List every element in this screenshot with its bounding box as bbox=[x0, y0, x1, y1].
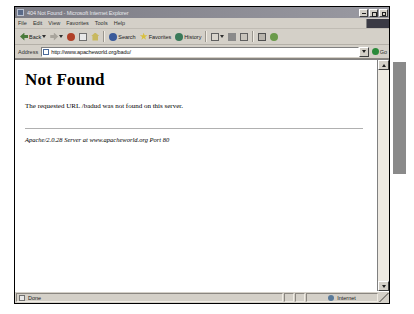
close-button[interactable] bbox=[379, 9, 388, 17]
mail-button[interactable] bbox=[209, 30, 226, 43]
page-title: Not Found bbox=[25, 70, 363, 90]
status-message-pane: Done bbox=[16, 293, 283, 302]
search-button-label: Search bbox=[118, 34, 135, 40]
horizontal-rule bbox=[25, 128, 363, 129]
menu-item-view[interactable]: View bbox=[48, 20, 60, 26]
resize-grip[interactable] bbox=[379, 293, 389, 302]
favorites-button-label: Favorites bbox=[149, 34, 172, 40]
toolbar-separator bbox=[252, 31, 254, 42]
page-edge-artifact bbox=[393, 62, 406, 174]
back-button-label: Back bbox=[29, 34, 41, 40]
go-button-label: Go bbox=[380, 49, 387, 55]
chevron-down-icon[interactable] bbox=[59, 35, 63, 38]
error-message: The requested URL /badud was not found o… bbox=[25, 102, 363, 110]
edit-icon bbox=[240, 33, 248, 41]
vertical-scrollbar[interactable] bbox=[377, 60, 389, 291]
history-clock-icon bbox=[175, 33, 183, 41]
favorites-button[interactable]: Favorites bbox=[138, 30, 174, 43]
forward-arrow-icon bbox=[50, 33, 58, 41]
messenger-icon bbox=[270, 33, 278, 41]
ie-document-icon bbox=[17, 9, 24, 16]
address-bar: Address http://www.apacheworld.org/badu/… bbox=[15, 45, 389, 59]
scroll-up-button[interactable] bbox=[378, 60, 389, 70]
go-button[interactable]: Go bbox=[372, 48, 387, 55]
search-icon bbox=[109, 33, 117, 41]
home-icon bbox=[91, 33, 99, 41]
back-arrow-icon bbox=[20, 33, 28, 41]
address-input[interactable]: http://www.apacheworld.org/badu/ bbox=[41, 47, 358, 57]
toolbar-separator bbox=[103, 31, 105, 42]
ie-logo-icon bbox=[366, 19, 389, 28]
maximize-button[interactable] bbox=[369, 9, 378, 17]
discuss-button[interactable] bbox=[256, 30, 268, 43]
status-pane-extra bbox=[295, 293, 305, 302]
stop-button[interactable] bbox=[65, 30, 77, 43]
history-button-label: History bbox=[184, 34, 201, 40]
navigation-toolbar: Back Search Favorites History bbox=[15, 29, 389, 45]
refresh-icon bbox=[79, 33, 87, 41]
page-favicon-icon bbox=[43, 49, 49, 55]
go-arrow-icon bbox=[372, 48, 379, 55]
home-button[interactable] bbox=[89, 30, 101, 43]
window-title: 404 Not Found - Microsoft Internet Explo… bbox=[27, 10, 358, 16]
refresh-button[interactable] bbox=[77, 30, 89, 43]
edit-button[interactable] bbox=[238, 30, 250, 43]
messenger-button[interactable] bbox=[268, 30, 280, 43]
menu-item-help[interactable]: Help bbox=[114, 20, 125, 26]
menu-item-edit[interactable]: Edit bbox=[33, 20, 42, 26]
mail-icon bbox=[211, 33, 219, 41]
chevron-down-icon[interactable] bbox=[220, 35, 224, 38]
print-icon bbox=[228, 33, 236, 41]
address-dropdown-button[interactable] bbox=[359, 47, 369, 57]
status-document-icon bbox=[19, 295, 25, 301]
stop-icon bbox=[67, 33, 75, 41]
security-zone-pane[interactable]: Internet bbox=[306, 293, 378, 302]
scrollbar-track[interactable] bbox=[378, 70, 389, 281]
status-pane-extra bbox=[284, 293, 294, 302]
back-button[interactable]: Back bbox=[18, 30, 48, 43]
toolbar-separator bbox=[205, 31, 207, 42]
browser-window: 404 Not Found - Microsoft Internet Explo… bbox=[14, 6, 390, 304]
chevron-down-icon[interactable] bbox=[42, 35, 46, 38]
server-signature: Apache/2.0.28 Server at www.apacheworld.… bbox=[25, 136, 363, 143]
menu-item-file[interactable]: File bbox=[18, 20, 27, 26]
content-region: Not Found The requested URL /badud was n… bbox=[15, 59, 389, 291]
address-url-text: http://www.apacheworld.org/badu/ bbox=[51, 49, 131, 55]
title-bar[interactable]: 404 Not Found - Microsoft Internet Explo… bbox=[15, 7, 389, 18]
menu-item-tools[interactable]: Tools bbox=[95, 20, 108, 26]
address-label: Address bbox=[18, 49, 38, 55]
search-button[interactable]: Search bbox=[107, 30, 137, 43]
page-canvas: Not Found The requested URL /badud was n… bbox=[15, 60, 377, 291]
status-bar: Done Internet bbox=[15, 291, 389, 303]
internet-globe-icon bbox=[328, 295, 334, 301]
print-button[interactable] bbox=[226, 30, 238, 43]
history-button[interactable]: History bbox=[173, 30, 203, 43]
security-zone-text: Internet bbox=[337, 295, 356, 301]
discuss-icon bbox=[258, 33, 266, 41]
favorites-star-icon bbox=[140, 33, 148, 41]
minimize-button[interactable] bbox=[359, 9, 368, 17]
menu-item-favorites[interactable]: Favorites bbox=[66, 20, 89, 26]
forward-button[interactable] bbox=[48, 30, 65, 43]
menu-bar: File Edit View Favorites Tools Help bbox=[15, 18, 389, 29]
status-text: Done bbox=[28, 295, 41, 301]
scroll-down-button[interactable] bbox=[378, 281, 389, 291]
